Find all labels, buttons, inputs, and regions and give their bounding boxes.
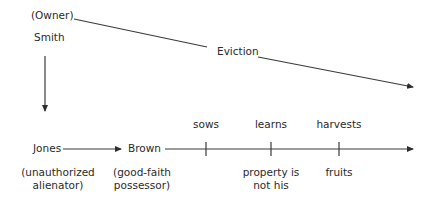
alienator-role-label: (unauthorized alienator) <box>20 166 96 192</box>
event-harvests-label: harvests <box>309 118 369 131</box>
event-learns-label: learns <box>246 118 296 131</box>
possessor-role-line1: (good-faith <box>112 166 172 179</box>
owner-role-label: (Owner) <box>31 9 73 22</box>
possessor-role-line2: possessor) <box>112 179 172 192</box>
event-harvests-detail: fruits <box>314 166 364 179</box>
possessor-name-label: Brown <box>128 142 161 155</box>
event-sows-label: sows <box>181 118 231 131</box>
eviction-label: Eviction <box>217 45 259 58</box>
event-learns-detail: property is not his <box>236 166 306 192</box>
alienator-name-label: Jones <box>33 142 61 155</box>
alienator-role-line1: (unauthorized <box>20 166 96 179</box>
event-learns-detail-line2: not his <box>236 179 306 192</box>
possessor-role-label: (good-faith possessor) <box>112 166 172 192</box>
eviction-arrow <box>258 57 413 87</box>
event-learns-detail-line1: property is <box>236 166 306 179</box>
eviction-line-segment-1 <box>74 19 207 47</box>
owner-name-label: Smith <box>34 31 65 44</box>
alienator-role-line2: alienator) <box>20 179 96 192</box>
